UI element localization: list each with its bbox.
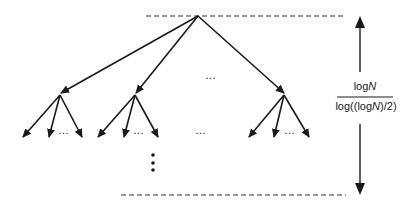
ellipsis-child3: …	[284, 124, 295, 136]
numerator-label: logN	[337, 80, 393, 92]
ellipsis-middle: …	[195, 124, 206, 136]
child2-edges	[98, 95, 158, 137]
ellipsis-top: …	[205, 69, 216, 81]
arrow-down-icon	[355, 183, 365, 195]
vertical-ellipsis	[151, 153, 155, 172]
ellipsis-child2: …	[133, 124, 144, 136]
child1-edges	[23, 95, 82, 137]
denominator-label: log((logN)/2)	[330, 100, 402, 112]
root-edges	[61, 16, 284, 93]
child3-edges	[249, 95, 309, 137]
ellipsis-child1: …	[58, 124, 69, 136]
arrow-up-icon	[355, 16, 365, 28]
